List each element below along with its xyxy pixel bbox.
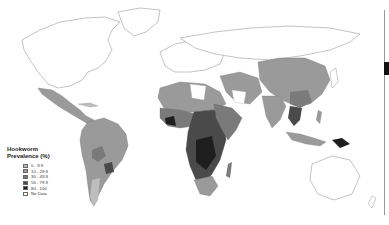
region-australia [310,156,360,200]
legend-label: 30 - 49.9 [31,174,48,179]
legend-title-line2: Prevalence (%) [7,153,50,160]
legend-label: 50 - 79.9 [31,180,48,185]
legend-swatch [23,181,28,185]
legend-label: 80 - 100 [31,186,47,191]
right-edge-block [384,62,389,75]
legend-label: 0 - 9.9 [31,163,43,168]
region-south-america [80,118,128,206]
region-madagascar [226,162,232,178]
legend-swatch [23,186,28,190]
region-india [262,96,286,128]
region-southeast-asia [288,106,302,126]
region-north-america [22,17,120,88]
region-greenland [118,8,160,36]
region-sahara-no-data [190,84,206,100]
legend-item: 10 - 29.9 [23,169,50,175]
region-arabia-no-data [232,90,246,104]
legend-item: 50 - 79.9 [23,180,50,186]
legend-title-line1: Hookworm [7,146,50,153]
legend-swatch [23,164,28,168]
legend-swatch [23,175,28,179]
region-japan [330,68,338,88]
right-divider [384,10,385,215]
world-map [0,0,389,225]
region-new-zealand [368,196,376,208]
region-caribbean [78,103,98,107]
region-papua-new-guinea [332,138,350,148]
legend-item: 30 - 49.9 [23,174,50,180]
map-legend: Hookworm Prevalence (%) 0 - 9.9 10 - 29.… [7,146,50,197]
legend-label: No Data [31,191,47,196]
legend-item: 80 - 100 [23,185,50,191]
legend-swatch [23,192,28,196]
region-china-south [290,90,312,108]
legend-swatch [23,169,28,173]
legend-item: No Data [23,191,50,197]
legend-label: 10 - 29.9 [31,169,48,174]
legend-items: 0 - 9.9 10 - 29.9 30 - 49.9 50 - 79.9 80… [23,163,50,197]
region-indonesia [286,132,326,146]
region-philippines [316,110,322,124]
